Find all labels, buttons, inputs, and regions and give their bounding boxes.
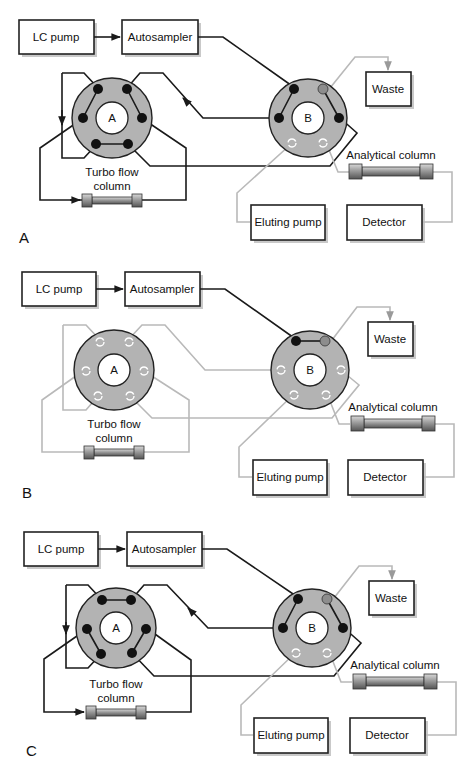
- autosampler-box: Autosampler: [125, 272, 203, 309]
- autosampler-label: Autosampler: [128, 31, 193, 43]
- panel-label-c: C: [26, 742, 37, 759]
- turbo-flow-label-1: Turbo flow: [85, 166, 139, 178]
- eluting-pump-label: Eluting pump: [257, 729, 324, 741]
- detector-box: Detector: [350, 718, 428, 756]
- turbo-flow-label-2: column: [93, 180, 130, 192]
- turbo-flow-column: Turbo flow column: [82, 166, 142, 207]
- valve-a-label: A: [110, 364, 118, 376]
- waste-box: Waste: [369, 581, 417, 618]
- line-analytical-to-detector: [426, 682, 456, 735]
- line-analytical-to-detector: [423, 172, 452, 222]
- analytical-column: Analytical column: [350, 659, 439, 689]
- waste-label: Waste: [374, 333, 406, 345]
- waste-label: Waste: [375, 592, 407, 604]
- analytical-column: Analytical column: [346, 149, 435, 179]
- valve-b-label: B: [308, 622, 316, 634]
- valve-b: B: [271, 331, 349, 409]
- autosampler-box: Autosampler: [122, 20, 201, 57]
- eluting-pump-box: Eluting pump: [251, 205, 328, 243]
- waste-box: Waste: [368, 322, 416, 359]
- valve-a: A: [76, 588, 156, 668]
- detector-box: Detector: [348, 460, 426, 498]
- line-autosampler-valve-b: [200, 289, 297, 340]
- turbo-flow-column: Turbo flow column: [86, 678, 146, 719]
- turbo-flow-column: Turbo flow column: [84, 418, 144, 459]
- lc-pump-label: LC pump: [33, 31, 80, 43]
- waste-label: Waste: [372, 83, 404, 95]
- waste-box: Waste: [366, 72, 414, 109]
- valve-a: A: [72, 78, 152, 158]
- analytical-column-label: Analytical column: [348, 401, 437, 413]
- lc-pump-box: LC pump: [24, 532, 101, 569]
- autosampler-label: Autosampler: [132, 543, 197, 555]
- eluting-pump-label: Eluting pump: [256, 471, 323, 483]
- lc-pump-box: LC pump: [22, 272, 99, 309]
- detector-box: Detector: [347, 205, 425, 243]
- turbo-flow-label-1: Turbo flow: [87, 418, 141, 430]
- valve-a-label: A: [108, 112, 116, 124]
- turbo-flow-label-2: column: [95, 432, 132, 444]
- valve-a: A: [74, 330, 154, 410]
- valve-b: B: [269, 79, 347, 157]
- analytical-column: Analytical column: [348, 401, 437, 431]
- eluting-pump-label: Eluting pump: [254, 216, 321, 228]
- line-autosampler-valve-b: [198, 37, 295, 88]
- line-analytical-to-detector: [424, 424, 454, 477]
- turbo-flow-label-1: Turbo flow: [89, 678, 143, 690]
- valve-b-label: B: [304, 112, 312, 124]
- turbo-flow-label-2: column: [97, 692, 134, 704]
- detector-label: Detector: [365, 729, 409, 741]
- panel-b: LC pump Autosampler Waste Eluting pump D…: [22, 272, 454, 501]
- autosampler-label: Autosampler: [130, 283, 195, 295]
- lc-pump-label: LC pump: [36, 283, 83, 295]
- autosampler-box: Autosampler: [127, 532, 205, 569]
- analytical-column-label: Analytical column: [350, 659, 439, 671]
- eluting-pump-box: Eluting pump: [254, 718, 331, 756]
- turbo-flow-lc-diagram: LC pump Autosampler Waste Eluting pump D…: [0, 0, 475, 768]
- panel-label-a: A: [19, 229, 29, 246]
- lc-pump-box: LC pump: [19, 20, 97, 57]
- panel-label-b: B: [22, 484, 32, 501]
- lc-pump-label: LC pump: [38, 543, 85, 555]
- valve-b: B: [273, 589, 351, 667]
- detector-label: Detector: [363, 471, 407, 483]
- line-autosampler-valve-b: [202, 549, 299, 598]
- analytical-column-label: Analytical column: [346, 149, 435, 161]
- eluting-pump-box: Eluting pump: [253, 460, 330, 498]
- valve-b-label: B: [306, 364, 314, 376]
- valve-a-label: A: [112, 622, 120, 634]
- panel-c: LC pump Autosampler Waste Eluting pump D…: [24, 532, 456, 759]
- panel-a: LC pump Autosampler Waste Eluting pump D…: [19, 20, 452, 246]
- detector-label: Detector: [362, 216, 406, 228]
